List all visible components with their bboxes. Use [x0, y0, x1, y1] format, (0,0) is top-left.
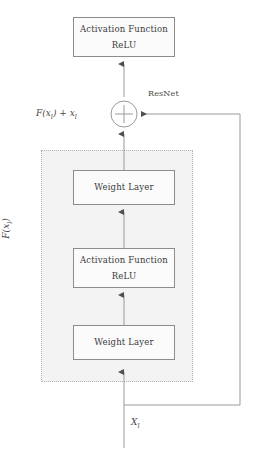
label-input: Xl — [131, 417, 140, 430]
diagram-connectors — [0, 0, 255, 460]
node-weight-upper-label: Weight Layer — [94, 181, 153, 193]
node-activation-top-line2: ReLU — [112, 39, 136, 51]
label-skip-connection: ResNet — [148, 89, 179, 98]
label-sum-output-head: F(x — [36, 108, 51, 118]
node-weight-layer-lower: Weight Layer — [73, 325, 175, 360]
node-activation-mid-line1: Activation Function — [80, 254, 168, 266]
label-residual-function: F(xl) — [1, 218, 14, 238]
label-input-sub: l — [137, 422, 139, 430]
node-weight-layer-upper: Weight Layer — [73, 170, 175, 205]
node-activation-function-mid: Activation Function ReLU — [73, 248, 175, 288]
label-sum-output-sub2: l — [75, 113, 77, 121]
node-activation-top-line1: Activation Function — [80, 23, 168, 35]
diagram-canvas: Activation Function ReLU Weight Layer Ac… — [0, 0, 255, 460]
label-residual-function-sub: l — [6, 222, 14, 224]
label-residual-function-tail: ) — [1, 218, 11, 222]
node-activation-function-top: Activation Function ReLU — [73, 17, 175, 57]
label-sum-output-tail: ) + x — [53, 108, 75, 118]
node-weight-lower-label: Weight Layer — [94, 336, 153, 348]
label-residual-function-head: F(x — [1, 224, 11, 239]
label-sum-output: F(xl) + xl — [36, 108, 77, 121]
node-activation-mid-line2: ReLU — [112, 270, 136, 282]
